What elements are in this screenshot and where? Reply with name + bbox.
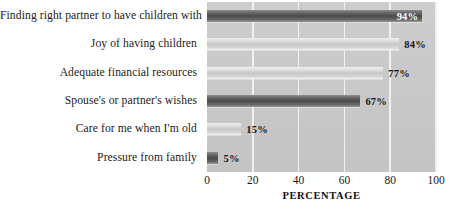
- bar-value-label: 15%: [246, 124, 268, 135]
- x-tick-label: 20: [247, 174, 259, 186]
- bar-row: 67%: [207, 87, 436, 115]
- category-label: Care for me when I'm old: [0, 115, 203, 143]
- category-axis: Finding right partner to have children w…: [0, 2, 203, 172]
- category-label: Adequate financial resources: [0, 59, 203, 87]
- bar-row: 15%: [207, 115, 436, 143]
- category-label: Joy of having children: [0, 30, 203, 58]
- bar-row: 5%: [207, 144, 436, 172]
- bars-layer: 94%84%77%67%15%5%: [207, 2, 436, 172]
- bar-value-label: 5%: [223, 152, 239, 163]
- bar: 15%: [207, 123, 241, 135]
- bar-value-label: 67%: [365, 96, 387, 107]
- bar-row: 77%: [207, 59, 436, 87]
- bar: 77%: [207, 67, 383, 79]
- bar: 94%: [207, 10, 422, 22]
- bar-chart: Finding right partner to have children w…: [0, 0, 450, 217]
- x-tick-label: 80: [384, 174, 396, 186]
- bar: 84%: [207, 38, 399, 50]
- category-label: Pressure from family: [0, 144, 203, 172]
- bar-row: 94%: [207, 2, 436, 30]
- category-label: Spouse's or partner's wishes: [0, 87, 203, 115]
- plot-area: 94%84%77%67%15%5%: [207, 2, 436, 172]
- bar-value-label: 77%: [388, 67, 410, 78]
- x-tick-label: 60: [339, 174, 351, 186]
- x-axis-title: PERCENTAGE: [207, 190, 436, 201]
- category-label: Finding right partner to have children w…: [0, 2, 203, 30]
- bar-row: 84%: [207, 30, 436, 58]
- x-tick-label: 100: [427, 174, 444, 186]
- x-axis: 020406080100: [207, 174, 436, 190]
- x-tick-label: 40: [293, 174, 305, 186]
- bar-value-label: 84%: [404, 39, 426, 50]
- bar-value-label: 94%: [397, 11, 419, 22]
- bar: 5%: [207, 152, 218, 164]
- x-tick-label: 0: [204, 174, 210, 186]
- bar: 67%: [207, 95, 360, 107]
